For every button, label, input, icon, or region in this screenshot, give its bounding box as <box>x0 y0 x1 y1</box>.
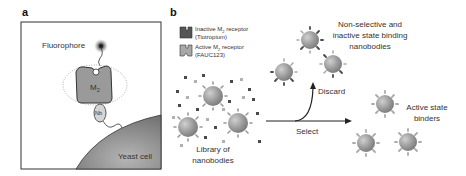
discard-arrowhead <box>310 82 316 89</box>
nanobody-label: Nb <box>95 110 102 116</box>
library-cell <box>224 109 252 137</box>
figure-canvas: a Yeast cell Fluorophore M2 Nb b Inactiv… <box>0 0 466 176</box>
active-binder-cell <box>353 130 379 156</box>
selection-arrows: Discard Select <box>266 82 352 136</box>
legend-active-line2: (FAUC123) <box>195 52 225 58</box>
discard-arrow <box>295 88 313 121</box>
discarded-cell <box>320 51 346 77</box>
discard-group-line3: nanobodies <box>349 42 390 51</box>
legend-inactive-line1: Inactive M2 receptor <box>195 26 248 34</box>
library-cells: Library of nanobodies <box>172 74 261 165</box>
inactive-receptor-icon <box>180 27 192 38</box>
library-label-line2: nanobodies <box>192 156 233 165</box>
discard-group-line2: inactive state binding <box>333 31 408 40</box>
discarded-cell <box>297 27 323 53</box>
fluorophore-label: Fluorophore <box>42 41 86 50</box>
legend-active-line1: Active M2 receptor <box>195 44 244 52</box>
library-cell <box>199 82 227 110</box>
fluorophore-dot <box>99 44 103 48</box>
active-label-line2: binders <box>414 114 440 123</box>
discard-label: Discard <box>318 87 345 96</box>
panel-a: a Yeast cell Fluorophore M2 Nb <box>21 6 161 169</box>
select-arrowhead <box>345 118 352 124</box>
select-label: Select <box>296 127 319 136</box>
panel-a-letter: a <box>22 6 29 18</box>
yeast-cell-label: Yeast cell <box>118 152 152 161</box>
discarded-cells: Non-selective and inactive state binding… <box>271 20 407 85</box>
library-label-line1: Library of <box>196 145 230 154</box>
panel-b: b Inactive M2 receptor (Tiotropium) Acti… <box>170 6 448 165</box>
active-receptor-icon <box>180 45 192 56</box>
active-binder-cells: Active state binders <box>353 91 448 156</box>
active-binder-cell <box>395 129 421 155</box>
discarded-cell <box>271 59 297 85</box>
active-label-line1: Active state <box>406 103 448 112</box>
library-cell <box>174 113 202 141</box>
ligand-pocket <box>93 69 99 75</box>
active-binder-cell <box>372 91 398 117</box>
legend: Inactive M2 receptor (Tiotropium) Active… <box>180 26 248 58</box>
legend-inactive-line2: (Tiotropium) <box>195 34 227 40</box>
discard-group-line1: Non-selective and <box>338 20 402 29</box>
panel-b-letter: b <box>170 6 177 18</box>
